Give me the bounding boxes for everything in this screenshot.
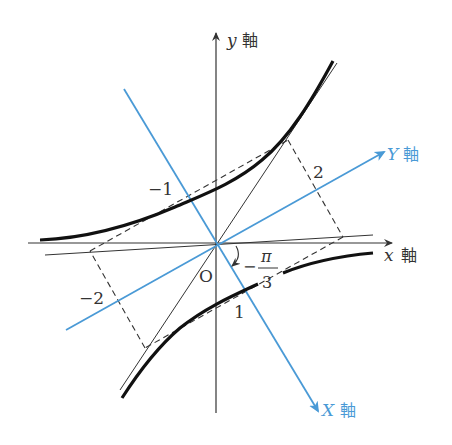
angle-label: − π 3 <box>243 247 278 292</box>
angle-arc <box>232 246 238 266</box>
tick-label-neg-two: −2 <box>79 288 104 308</box>
x-axis-suffix: 軸 <box>401 246 417 265</box>
x-axis-label: x 軸 <box>384 245 417 265</box>
angle-numerator: π <box>260 247 272 266</box>
y-axis-var: y <box>226 30 237 50</box>
y-axis-suffix: 軸 <box>242 31 258 50</box>
X-axis-var: X <box>320 400 335 420</box>
y-axis-label: y 軸 <box>226 30 258 50</box>
angle-sign: − <box>243 257 256 276</box>
asymptote-shallow <box>45 235 373 255</box>
Y-axis-suffix: 軸 <box>403 145 419 164</box>
Y-axis-rotated-label: Y 軸 <box>387 144 419 164</box>
x-axis-var: x <box>384 245 394 265</box>
tick-label-neg-one: −1 <box>148 179 173 199</box>
hyperbola-diagram: y 軸 x 軸 Y 軸 X 軸 O − π 3 −1 2 −2 1 <box>0 0 452 445</box>
origin-label: O <box>199 266 213 286</box>
X-axis-rotated-label: X 軸 <box>320 400 356 420</box>
hyperbola-upper-branch <box>40 61 333 240</box>
tick-label-two: 2 <box>313 162 324 182</box>
Y-axis-var: Y <box>387 144 400 164</box>
X-axis-rotated <box>124 89 318 411</box>
X-axis-suffix: 軸 <box>340 401 356 420</box>
tick-label-one: 1 <box>234 302 245 322</box>
angle-denominator: 3 <box>262 273 272 292</box>
